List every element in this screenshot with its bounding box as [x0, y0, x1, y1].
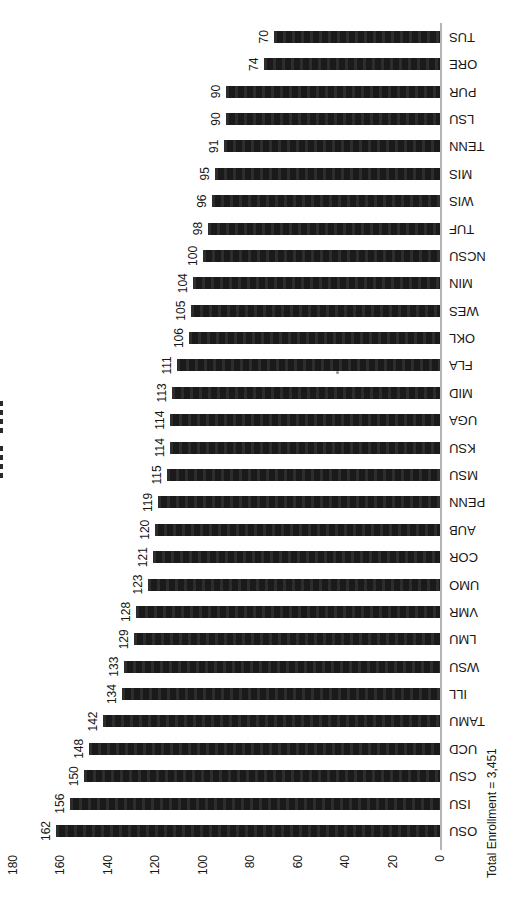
y-tick-0: 0 [433, 855, 447, 891]
bar-tuf [208, 223, 440, 235]
value-label-vmr: 128 [119, 602, 133, 622]
value-label-wis: 96 [195, 194, 209, 207]
y-tick-160: 160 [53, 855, 67, 891]
bar-ksu [170, 442, 440, 454]
bar-ncsu [203, 250, 440, 262]
clipped-title-dash-3 [0, 446, 3, 451]
bar-chart: 020406080100120140160180 162156150148142… [0, 0, 515, 911]
category-label-text: OKL [449, 331, 475, 345]
value-label-lmu: 129 [117, 629, 131, 649]
value-label-lsu: 90 [209, 112, 223, 125]
bar-ill [122, 688, 440, 700]
bar-cor [153, 551, 440, 563]
category-label-text: ILL [449, 687, 467, 701]
value-label-tuf: 98 [191, 222, 205, 235]
category-label-text: OSU [449, 824, 477, 838]
x-axis-line [440, 23, 442, 850]
bar-mis [215, 168, 440, 180]
category-label-text: NCSU [449, 249, 486, 263]
category-label-text: LSU [449, 112, 474, 126]
category-label-text: WES [449, 304, 479, 318]
clipped-title-dash-0 [0, 473, 3, 478]
y-tick-80: 80 [243, 855, 257, 891]
bar-isu [70, 798, 440, 810]
value-label-tamu: 142 [86, 711, 100, 731]
value-label-cor: 121 [136, 547, 150, 567]
value-label-mid: 113 [155, 383, 169, 402]
value-label-ncsu: 100 [186, 246, 200, 266]
category-label-text: TUS [449, 30, 475, 44]
value-label-csu: 150 [67, 766, 81, 786]
category-label-text: PUR [449, 85, 476, 99]
value-label-wsu: 133 [107, 657, 121, 677]
bar-wis [212, 195, 440, 207]
bar-min [193, 277, 440, 289]
value-label-wes: 105 [174, 301, 188, 321]
y-tick-100: 100 [196, 855, 210, 891]
category-label-text: PENN [449, 495, 485, 509]
category-label-text: AUB [449, 523, 476, 537]
bar-lmu [134, 633, 440, 645]
bar-lsu [226, 113, 440, 125]
y-tick-40: 40 [338, 855, 352, 891]
category-label-text: MIN [449, 276, 473, 290]
clipped-title-dash-6 [0, 410, 3, 415]
value-label-min: 104 [176, 273, 190, 293]
scan-speck [336, 371, 339, 374]
category-label-text: ORE [449, 57, 477, 71]
clipped-title-dash-1 [0, 464, 3, 469]
category-label-text: KSU [449, 441, 476, 455]
bar-penn [158, 496, 440, 508]
category-label-text: ISU [449, 797, 471, 811]
bar-tus [274, 31, 440, 43]
bar-csu [84, 770, 440, 782]
value-label-okl: 106 [172, 328, 186, 348]
bar-vmr [136, 606, 440, 618]
value-label-umo: 123 [131, 575, 145, 595]
value-label-ucd: 148 [72, 739, 86, 759]
y-tick-20: 20 [386, 855, 400, 891]
category-label-text: UMO [449, 578, 479, 592]
value-label-pur: 90 [209, 85, 223, 98]
value-label-isu: 156 [53, 794, 67, 814]
category-label-text: TAMU [449, 714, 485, 728]
y-tick-140: 140 [101, 855, 115, 891]
bar-wsu [124, 661, 440, 673]
value-label-osu: 162 [39, 821, 53, 841]
bar-ore [264, 58, 440, 70]
category-label-text: MSU [449, 468, 478, 482]
clipped-title-dash-2 [0, 455, 3, 460]
bar-pur [226, 86, 440, 98]
clipped-title-dash-4 [0, 428, 3, 433]
bar-ucd [89, 743, 440, 755]
category-label-text: WSU [449, 660, 479, 674]
bar-wes [191, 305, 440, 317]
y-tick-60: 60 [291, 855, 305, 891]
value-label-ksu: 114 [153, 438, 167, 457]
clipped-title-dash-7 [0, 401, 3, 406]
category-label-text: UGA [449, 413, 477, 427]
value-label-penn: 119 [141, 493, 155, 512]
bar-umo [148, 579, 440, 591]
clipped-title-dash-5 [0, 419, 3, 424]
bar-msu [167, 469, 440, 481]
category-label-text: WIS [449, 194, 474, 208]
value-label-msu: 115 [150, 465, 164, 484]
category-label-text: UCD [449, 742, 477, 756]
value-label-tenn: 91 [207, 140, 221, 153]
category-label-text: TENN [449, 139, 484, 153]
bar-fla [177, 359, 440, 371]
category-label-text: TUF [449, 222, 474, 236]
bar-osu [56, 825, 440, 837]
value-label-ill: 134 [105, 684, 119, 704]
value-label-mis: 95 [198, 167, 212, 180]
value-label-fla: 111 [160, 356, 174, 374]
bar-tenn [224, 140, 440, 152]
footnote-total-enrollment: Total Enrollment = 3,451 [485, 748, 499, 878]
value-label-tus: 70 [257, 30, 271, 43]
bar-mid [172, 387, 440, 399]
y-tick-120: 120 [148, 855, 162, 891]
value-label-aub: 120 [138, 520, 152, 540]
y-tick-180: 180 [6, 855, 20, 891]
bar-tamu [103, 715, 440, 727]
